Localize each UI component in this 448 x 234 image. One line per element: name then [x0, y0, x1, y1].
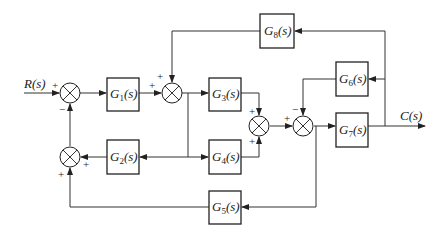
block-g3: G3(s)	[209, 78, 241, 111]
summing-junction-4	[249, 116, 269, 136]
summing-junction-2	[162, 83, 182, 103]
svg-text:+: +	[249, 105, 255, 117]
block-g2: G2(s)	[107, 140, 139, 174]
output-label: C(s)	[400, 108, 422, 123]
block-g7: G7(s)	[336, 113, 368, 147]
svg-text:G5(s): G5(s)	[212, 199, 240, 216]
svg-text:−: −	[59, 103, 65, 115]
svg-text:G4(s): G4(s)	[212, 149, 240, 166]
block-g1: G1(s)	[107, 78, 139, 111]
svg-text:+: +	[52, 79, 58, 91]
summing-junction-3	[60, 147, 80, 167]
svg-text:G6(s): G6(s)	[339, 71, 367, 88]
block-g5: G5(s)	[209, 191, 241, 224]
summing-junction-1	[60, 83, 80, 103]
svg-text:+: +	[58, 168, 64, 180]
block-g8: G8(s)	[260, 14, 294, 48]
svg-text:G2(s): G2(s)	[110, 149, 138, 166]
svg-text:+: +	[83, 158, 89, 170]
svg-text:+: +	[249, 135, 255, 147]
svg-text:−: −	[292, 103, 298, 115]
block-diagram: G1(s) G2(s) G3(s) G4(s) G5(s) G6(s) G7(s…	[0, 0, 448, 234]
svg-text:G8(s): G8(s)	[264, 23, 292, 40]
block-g6: G6(s)	[336, 62, 368, 96]
svg-text:+: +	[157, 70, 163, 82]
input-label: R(s)	[23, 76, 46, 91]
summing-junction-5	[293, 116, 313, 136]
block-g4: G4(s)	[209, 140, 241, 174]
svg-text:G3(s): G3(s)	[212, 86, 240, 103]
svg-text:G7(s): G7(s)	[339, 122, 367, 139]
svg-text:+: +	[284, 112, 290, 124]
svg-text:G1(s): G1(s)	[110, 86, 138, 103]
svg-text:+: +	[149, 79, 155, 91]
